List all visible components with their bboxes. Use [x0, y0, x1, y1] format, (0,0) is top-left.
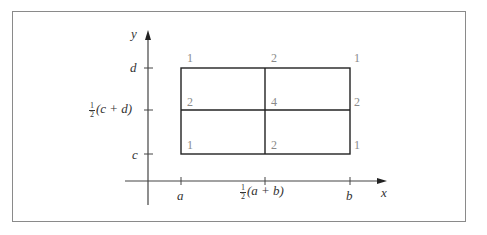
weight-bottom-right: 1	[354, 139, 360, 151]
weight-top-right: 1	[354, 52, 360, 64]
y-axis-label: y	[131, 27, 137, 40]
weight-mid-right: 2	[354, 96, 360, 108]
weight-mid-left: 2	[187, 96, 193, 108]
x-tick-label-b: b	[346, 189, 353, 202]
x-tick-label-mid: 12(a + b)	[240, 184, 284, 201]
y-tick-label-d: d	[130, 61, 137, 74]
x-axis-arrow-icon	[377, 178, 387, 184]
weight-top-mid: 2	[271, 52, 277, 64]
x-axis-label: x	[381, 186, 387, 199]
y-axis-arrow-icon	[145, 30, 151, 40]
x-tick-label-a: a	[177, 189, 184, 202]
weight-center: 4	[271, 96, 277, 108]
y-tick-label-c: c	[132, 148, 138, 161]
weight-bottom-mid: 2	[271, 139, 277, 151]
weight-bottom-left: 1	[187, 139, 193, 151]
diagram-canvas: y x d 12(c + d) c a 12(a + b) b 1 2 1 2 …	[0, 0, 487, 235]
y-tick-label-mid: 12(c + d)	[89, 102, 132, 119]
weight-top-left: 1	[187, 52, 193, 64]
